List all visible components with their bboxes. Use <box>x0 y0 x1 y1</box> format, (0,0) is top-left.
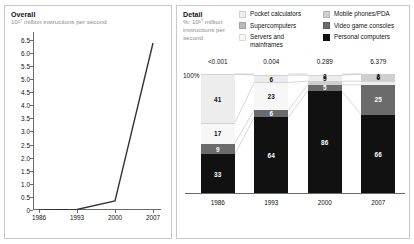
overall-y-tick-label: 2.0 <box>21 154 30 161</box>
bar-segment-value: 66 <box>375 151 382 158</box>
overall-y-tick-label: 6.5 <box>21 36 30 43</box>
overall-header: Overall 10¹⁷ million instructions per se… <box>11 11 107 26</box>
bar-segment-1986-3[interactable]: 33 <box>201 154 235 194</box>
legend-label-personal-computers: Personal computers <box>334 33 390 41</box>
overall-title: Overall <box>11 11 107 18</box>
legend-item-servers-and-mainframes[interactable]: Servers andmainframes <box>239 33 323 48</box>
legend-swatch-pocket-calculators <box>239 11 246 18</box>
legend-swatch-personal-computers <box>323 34 330 41</box>
connector-line <box>288 91 308 117</box>
bar-segment-value-outside: 3 <box>308 73 342 80</box>
overall-y-tick-label: 6.0 <box>21 49 30 56</box>
detail-panel: Detail %: 10¹⁷ million instructions per … <box>176 5 410 239</box>
legend-swatch-mobile-phones-pda <box>323 11 330 18</box>
legend-swatch-supercomputers <box>239 22 246 29</box>
overall-y-tick-label: 2.5 <box>21 141 30 148</box>
connector-line <box>288 81 308 82</box>
bar-segment-value: 23 <box>268 93 275 100</box>
connector-line <box>235 117 255 154</box>
overall-y-tick-label: 5.5 <box>21 63 30 70</box>
legend-column-left: Pocket calculatorsSupercomputersServers … <box>239 10 323 52</box>
connector-line <box>235 110 255 144</box>
legend-item-personal-computers[interactable]: Personal computers <box>323 33 407 41</box>
bar-segment-value: 86 <box>321 139 328 146</box>
overall-x-tick-mark <box>77 210 78 213</box>
overall-y-tick-label: 0.5 <box>21 193 30 200</box>
connector-line <box>342 74 362 75</box>
legend-item-supercomputers[interactable]: Supercomputers <box>239 22 323 30</box>
detail-subtitle: %: 10¹⁷ million instructions per second <box>183 18 243 42</box>
legend-label-servers-and-mainframes: Servers andmainframes <box>250 33 284 48</box>
bar-segment-2007-1[interactable] <box>361 81 395 85</box>
legend-swatch-servers-and-mainframes <box>239 34 246 41</box>
overall-panel: Overall 10¹⁷ million instructions per se… <box>4 5 172 239</box>
bar-segment-1986-0[interactable]: 41 <box>201 74 235 123</box>
figure-root: Overall 10¹⁷ million instructions per se… <box>0 0 414 244</box>
bar-segment-value: 6 <box>269 76 273 83</box>
overall-x-tick-label: 1986 <box>32 214 46 221</box>
overall-x-tick-mark <box>153 210 154 213</box>
connector-line <box>235 82 255 123</box>
legend-item-video-game-consoles[interactable]: Video game consoles <box>323 22 407 30</box>
bar-segment-1993-2[interactable]: 6 <box>254 110 288 117</box>
detail-x-axis <box>185 193 405 194</box>
bar-segment-1993-1[interactable]: 23 <box>254 82 288 110</box>
overall-y-tick-label: 1.0 <box>21 180 30 187</box>
bar-segment-2000-2[interactable]: 5 <box>308 85 342 91</box>
overall-x-tick-mark <box>39 210 40 213</box>
legend-item-pocket-calculators[interactable]: Pocket calculators <box>239 10 323 18</box>
overall-y-tick-label: 5.0 <box>21 76 30 83</box>
legend-column-right: Mobile phones/PDAVideo game consolesPers… <box>323 10 407 52</box>
legend-label-video-game-consoles: Video game consoles <box>334 22 394 30</box>
stacked-bar-1986[interactable]: 3391741 <box>201 74 235 194</box>
overall-x-tick-label: 1993 <box>70 214 84 221</box>
stacked-bar-2007[interactable]: 662563 <box>361 74 395 194</box>
bar-segment-value: 9 <box>216 146 220 153</box>
detail-x-tick-label: 1993 <box>264 199 278 206</box>
overall-y-tick-label: 4.0 <box>21 102 30 109</box>
overall-x-tick-label: 2007 <box>146 214 160 221</box>
bar-segment-2007-3[interactable]: 66 <box>361 115 395 194</box>
bar-segment-1993-3[interactable]: 64 <box>254 117 288 194</box>
overall-y-tick-label: 4.5 <box>21 89 30 96</box>
overall-x-tick-label: 2000 <box>108 214 122 221</box>
overall-y-tick-label: 3.0 <box>21 128 30 135</box>
legend: Pocket calculatorsSupercomputersServers … <box>239 10 407 52</box>
overall-line-series <box>33 32 161 210</box>
bar-total-2000: 0.289 <box>317 58 333 65</box>
detail-plot-area: 339174164623686553662563 198619932000200… <box>191 58 405 206</box>
stacked-bar-1993[interactable]: 646236 <box>254 74 288 194</box>
bar-segment-2000-1[interactable] <box>308 81 342 85</box>
overall-x-tick-mark <box>115 210 116 213</box>
overall-line-path <box>39 43 153 210</box>
legend-label-mobile-phones-pda: Mobile phones/PDA <box>334 10 390 18</box>
overall-subtitle: 10¹⁷ million instructions per second <box>11 18 107 26</box>
overall-plot-area: 00.51.01.52.02.53.03.54.04.55.05.56.06.5… <box>33 32 161 210</box>
bar-total-2007: 6.379 <box>370 58 386 65</box>
connector-line <box>288 85 308 110</box>
legend-label-supercomputers: Supercomputers <box>250 22 296 30</box>
bar-total-1986: <0.001 <box>208 58 228 65</box>
detail-header: Detail %: 10¹⁷ million instructions per … <box>183 11 243 42</box>
stacked-bar-2000[interactable]: 86553 <box>308 74 342 194</box>
detail-x-tick-label: 2007 <box>371 199 385 206</box>
detail-title: Detail <box>183 11 243 18</box>
bar-segment-value: 17 <box>214 130 221 137</box>
bar-segment-2000-3[interactable]: 86 <box>308 91 342 194</box>
bar-segment-1993-0[interactable]: 6 <box>254 75 288 82</box>
bar-segment-1986-1[interactable]: 17 <box>201 123 235 143</box>
bar-segment-value: 64 <box>268 152 275 159</box>
detail-x-tick-label: 2000 <box>318 199 332 206</box>
bar-segment-value: 6 <box>269 110 273 117</box>
legend-swatch-video-game-consoles <box>323 22 330 29</box>
legend-label-pocket-calculators: Pocket calculators <box>250 10 301 18</box>
bar-segment-value: 33 <box>214 171 221 178</box>
connector-line <box>342 91 362 115</box>
bar-segment-1986-2[interactable]: 9 <box>201 144 235 155</box>
bar-segment-2007-2[interactable]: 25 <box>361 85 395 115</box>
overall-y-tick-label: 1.5 <box>21 167 30 174</box>
detail-x-tick-label: 1986 <box>211 199 225 206</box>
connector-line <box>235 74 255 75</box>
bar-segment-value: 5 <box>323 85 327 91</box>
legend-item-mobile-phones-pda[interactable]: Mobile phones/PDA <box>323 10 407 18</box>
